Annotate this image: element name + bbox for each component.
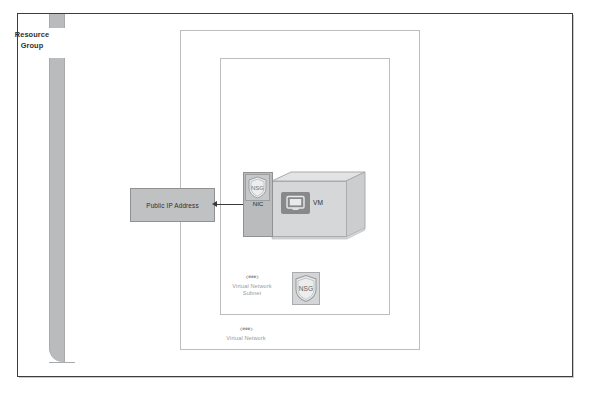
vm-label: VM xyxy=(313,199,323,206)
subnet-caption: ‹•••› Virtual Network Subnet xyxy=(222,272,282,297)
resource-group-bar-foot xyxy=(49,350,75,363)
subnet-caption-line1: Virtual Network xyxy=(232,283,271,289)
arrow-head-left-icon xyxy=(212,201,217,207)
nsg-label: NSG xyxy=(299,285,313,292)
diagram-canvas: Resource Group Public IP Address xyxy=(0,0,591,400)
subnet-icon: ‹•••› xyxy=(222,272,282,283)
nic-nsg-badge[interactable]: NSG xyxy=(245,174,270,201)
nsg-node[interactable]: NSG xyxy=(292,272,320,305)
resource-group-label: Resource Group xyxy=(10,29,54,51)
virtual-network-caption-label: Virtual Network xyxy=(226,335,265,341)
public-ip-address-label: Public IP Address xyxy=(146,202,199,209)
resource-group-label-line2: Group xyxy=(21,41,44,50)
monitor-icon xyxy=(281,192,310,214)
resource-group-bar xyxy=(49,14,65,362)
resource-group-label-line1: Resource xyxy=(15,30,49,39)
public-ip-address-node[interactable]: Public IP Address xyxy=(130,188,215,222)
virtual-machine-group: VM NSG NIC xyxy=(243,172,365,252)
virtual-network-caption: ‹•••› Virtual Network xyxy=(206,324,286,342)
nic-nsg-badge-label: NSG xyxy=(251,184,264,190)
vnet-icon: ‹•••› xyxy=(206,324,286,335)
nic-label: NIC xyxy=(246,200,270,207)
subnet-caption-line2: Subnet xyxy=(243,290,261,296)
